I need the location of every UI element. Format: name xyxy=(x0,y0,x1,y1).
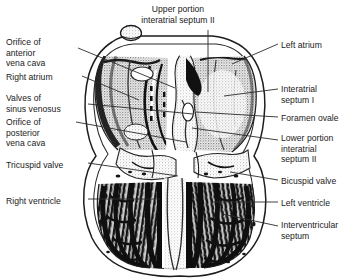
truncus-knob xyxy=(121,26,142,41)
label-left-ventricle: Left ventricle xyxy=(281,198,347,209)
interventricular-septum xyxy=(164,178,186,270)
label-right-ventricle: Right ventricle xyxy=(6,196,86,207)
label-lower-portion-interatrial-septum-ii: Lower portion interatrial septum II xyxy=(281,133,347,165)
label-bicuspid-valve: Bicuspid valve xyxy=(281,176,347,187)
left-ventricle-chamber xyxy=(185,171,256,270)
label-foramen-ovale: Foramen ovale xyxy=(281,113,347,124)
label-tricuspid-valve: Tricuspid valve xyxy=(6,160,86,171)
label-valves-of-sinus-venosus: Valves of sinus venosus xyxy=(6,93,84,114)
label-right-atrium: Right atrium xyxy=(6,72,76,83)
label-orifice-of-posterior-vena-cava: Orifice of posterior vena cava xyxy=(6,117,76,149)
label-orifice-of-anterior-vena-cava: Orifice of anterior vena cava xyxy=(6,37,76,69)
foramen-ovale-opening xyxy=(183,103,194,121)
label-interventricular-septum: Interventricular septum xyxy=(281,220,347,241)
label-upper-portion-interatrial-septum-ii: Upper portion interatrial septum II xyxy=(119,4,237,25)
label-left-atrium: Left atrium xyxy=(281,40,347,51)
label-interatrial-septum-i: Interatrial septum I xyxy=(281,84,347,105)
